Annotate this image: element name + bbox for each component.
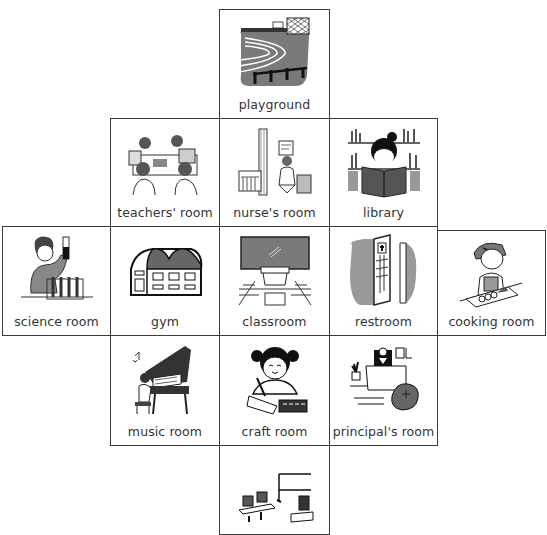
card-science-room[interactable]: science room [2, 226, 111, 336]
card-gym[interactable]: gym [110, 226, 220, 336]
card-principals-room[interactable]: principal's room [329, 335, 438, 446]
teachers-room-icon [111, 125, 219, 201]
craft-room-icon [220, 342, 329, 418]
library-icon [330, 125, 437, 201]
card-library[interactable]: library [329, 118, 438, 227]
card-label: teachers' room [111, 205, 219, 220]
cooking-room-icon [438, 237, 545, 313]
card-music-room[interactable]: music room [110, 335, 220, 446]
restroom-icon [330, 233, 437, 309]
card-label: classroom [220, 314, 329, 329]
card-label: craft room [220, 424, 329, 439]
classroom-icon [220, 233, 329, 309]
card-computer-room[interactable] [219, 445, 330, 535]
card-classroom[interactable]: classroom [219, 226, 330, 336]
card-restroom[interactable]: restroom [329, 226, 438, 336]
card-nurses-room[interactable]: nurse's room [219, 118, 330, 227]
science-room-icon [3, 233, 110, 309]
card-teachers-room[interactable]: teachers' room [110, 118, 220, 227]
card-craft-room[interactable]: craft room [219, 335, 330, 446]
card-label: restroom [330, 314, 437, 329]
card-cooking-room[interactable]: cooking room [437, 230, 546, 336]
card-label: cooking room [438, 314, 545, 329]
principals-room-icon [330, 342, 437, 418]
card-label: nurse's room [220, 205, 329, 220]
card-playground[interactable]: playground [219, 9, 330, 119]
card-label: gym [111, 314, 219, 329]
card-label: music room [111, 424, 219, 439]
card-label: science room [3, 314, 110, 329]
computer-room-icon [220, 466, 329, 526]
music-room-icon [111, 342, 219, 418]
playground-icon [220, 16, 329, 92]
gym-icon [111, 233, 219, 309]
card-label: principal's room [330, 424, 437, 439]
card-label: playground [220, 97, 329, 112]
nurses-room-icon [220, 125, 329, 201]
card-label: library [330, 205, 437, 220]
